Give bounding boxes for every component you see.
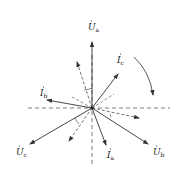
label-Ub: Ub [153,147,165,158]
dashed-phasor-0 [77,62,92,108]
phasor-dot-Uc [19,145,20,146]
phasor-dot-Ic [120,53,121,54]
phasor-dot-Ia [110,148,111,149]
label-Ib: Ib [39,88,48,99]
origin-point [90,106,93,109]
label-Ia: Ia [106,150,115,161]
dashed-phasors [69,62,139,141]
phasor-Ub [92,108,148,144]
label-Ic: Ic [116,55,125,66]
dashed-short-ne [92,94,114,108]
label-Uc: Uc [16,147,28,158]
phasor-dot-Ua [91,20,92,21]
phasor-Ic [92,74,118,108]
solid-phasors [30,42,148,145]
label-Ua: Ua [88,22,100,33]
phasor-dot-Ub [156,145,157,146]
dashed-phasor-2 [69,108,92,141]
phasor-diagram: UaUbUcIaIbIc [0,0,181,171]
rotation-direction-arrow [134,57,153,95]
dashed-reference-axes [28,55,170,166]
phasor-Uc [30,108,92,144]
phasor-Ia [92,108,106,145]
phasor-dot-Ib [43,86,44,87]
